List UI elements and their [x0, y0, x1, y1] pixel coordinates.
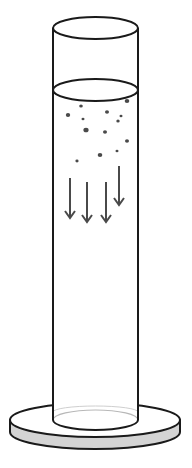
cylinder-interior — [53, 28, 138, 420]
cylinder-diagram — [0, 0, 192, 468]
particle-dot — [116, 119, 119, 122]
particle-dot — [66, 113, 70, 117]
particle-dot — [125, 139, 129, 143]
particle-dot — [79, 104, 83, 107]
particle-dot — [98, 153, 103, 157]
particle-dot — [120, 115, 123, 118]
particle-dot — [103, 130, 107, 134]
cylinder-body — [53, 17, 138, 430]
particle-dot — [116, 150, 119, 153]
diagram-canvas: Sedimentation in a cylinder — [0, 0, 192, 468]
particle-dot — [83, 128, 88, 133]
particle-dot — [82, 118, 85, 121]
particle-dot — [105, 110, 109, 114]
particle-dot — [125, 99, 130, 103]
cylinder-top-rim — [53, 17, 138, 39]
particle-dot — [75, 160, 78, 163]
